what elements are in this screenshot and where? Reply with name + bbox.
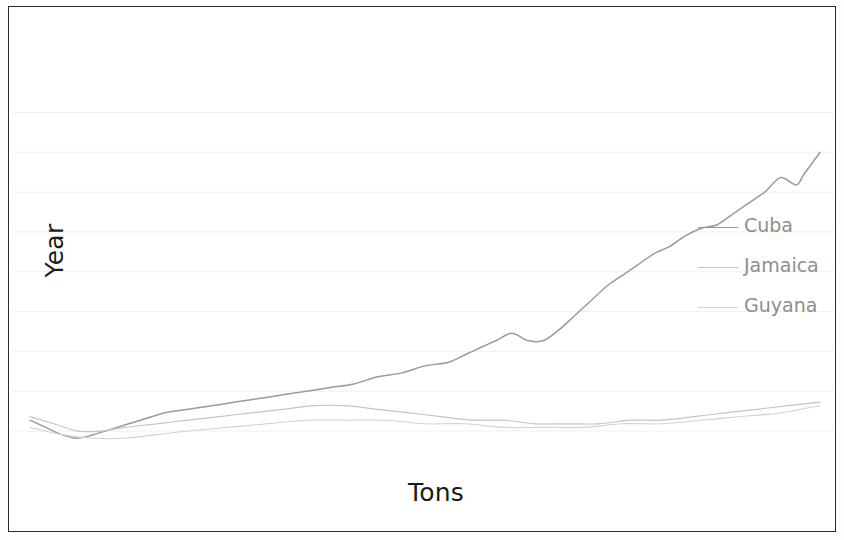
legend-swatch-jamaica xyxy=(698,267,738,268)
legend-label-jamaica: Jamaica xyxy=(744,254,819,276)
legend-item-cuba: Cuba xyxy=(698,214,838,254)
legend-item-jamaica: Jamaica xyxy=(698,254,838,294)
legend-swatch-cuba xyxy=(698,227,738,228)
legend-item-guyana: Guyana xyxy=(698,294,838,334)
legend-swatch-guyana xyxy=(698,307,738,308)
y-axis-label: Year xyxy=(40,191,69,311)
legend-label-cuba: Cuba xyxy=(744,214,793,236)
legend-label-guyana: Guyana xyxy=(744,294,817,316)
x-axis-label: Tons xyxy=(336,478,536,507)
chart-legend: Cuba Jamaica Guyana xyxy=(698,214,838,334)
chart-figure: Year Tons Cuba Jamaica Guyana xyxy=(0,0,844,540)
